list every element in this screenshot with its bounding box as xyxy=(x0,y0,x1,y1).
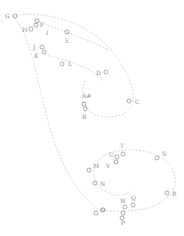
point-marker-icon xyxy=(123,205,127,209)
point-t: T xyxy=(120,142,125,156)
point-label: B xyxy=(82,113,87,120)
point-l: L xyxy=(60,60,72,67)
point-label: Q xyxy=(131,194,136,201)
point-marker-icon xyxy=(83,107,87,111)
point-marker-icon xyxy=(94,211,98,215)
point-label: J xyxy=(32,43,36,51)
point-e: E xyxy=(65,30,69,44)
point-j: J xyxy=(32,43,44,51)
point-label: L xyxy=(68,60,72,67)
point-marker-icon xyxy=(114,160,118,164)
point-h: H xyxy=(22,26,33,33)
point-label: N xyxy=(100,180,105,187)
point-u: U xyxy=(109,151,119,159)
point-label: S xyxy=(162,150,166,157)
point-m: M xyxy=(87,162,99,172)
dotted-path-group xyxy=(13,14,175,211)
point-label: K xyxy=(34,52,39,59)
point-u2 xyxy=(114,160,118,164)
point-marker-icon xyxy=(93,181,97,185)
point-label: U xyxy=(109,151,114,158)
point-b: B xyxy=(82,113,87,120)
point-marker-icon xyxy=(29,27,33,31)
point-marker-icon xyxy=(87,168,91,172)
point-label: W xyxy=(120,197,127,204)
point-a2 xyxy=(83,107,87,111)
point-w: W xyxy=(120,197,127,209)
point-label: H xyxy=(22,26,27,33)
dotted-path xyxy=(45,55,102,80)
point-r: R xyxy=(165,190,177,197)
point-path-diagram: GHFIEJKLDCA#BTUVSMNRWQOP xyxy=(0,0,184,236)
point-d: D xyxy=(96,69,108,76)
point-label: F xyxy=(40,21,44,28)
point-p: P xyxy=(121,211,125,226)
point-label: G xyxy=(5,12,10,19)
point-label: V xyxy=(105,162,111,169)
point-marker-icon xyxy=(121,211,125,215)
point-label: A# xyxy=(81,92,91,99)
point-label: M xyxy=(93,162,99,169)
point-q: Q xyxy=(131,194,136,207)
point-marker-icon xyxy=(165,191,169,195)
point-marker-icon xyxy=(121,152,125,156)
point-label: R xyxy=(172,190,177,197)
point-k: K xyxy=(34,50,46,59)
point-label: T xyxy=(120,142,124,149)
point-i: I xyxy=(46,29,49,36)
point-o: O xyxy=(94,206,105,215)
point-marker-icon xyxy=(60,62,64,66)
point-marker-icon xyxy=(40,45,44,49)
dotted-path xyxy=(94,150,176,211)
point-a: A# xyxy=(81,92,91,99)
point-label: I xyxy=(46,29,49,36)
point-label: D xyxy=(96,69,101,76)
point-group: GHFIEJKLDCA#BTUVSMNRWQOP xyxy=(5,12,177,226)
dotted-path xyxy=(13,14,133,117)
point-marker-icon xyxy=(127,99,131,103)
point-g: G xyxy=(5,12,17,19)
point-marker-icon xyxy=(131,203,135,207)
point-marker-icon xyxy=(115,155,119,159)
point-marker-icon xyxy=(155,156,159,160)
point-marker-icon xyxy=(104,70,108,74)
point-marker-icon xyxy=(42,50,46,54)
point-marker-icon xyxy=(65,30,69,34)
point-c: C xyxy=(127,98,140,105)
point-marker-icon xyxy=(34,23,38,27)
dotted-path xyxy=(13,16,100,210)
point-n: N xyxy=(93,180,105,187)
point-label: C xyxy=(135,98,140,105)
point-label: E xyxy=(65,37,69,44)
point-v: V xyxy=(105,162,111,169)
